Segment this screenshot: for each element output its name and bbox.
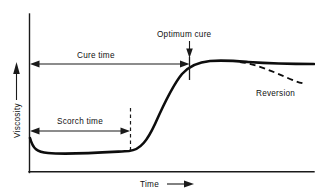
- cure-curve-figure: Viscosity Time Cure time Scorch time: [0, 0, 315, 192]
- scorch-time-right-arrow-icon: [121, 128, 131, 135]
- cure-time-label: Cure time: [77, 51, 115, 60]
- scorch-time-left-arrow-icon: [30, 128, 40, 135]
- optimum-cure-down-arrow-icon: [186, 49, 193, 59]
- cure-time-right-arrow-icon: [180, 61, 190, 68]
- right-arrow-icon: [184, 181, 194, 188]
- x-axis-label: Time: [140, 180, 159, 189]
- scorch-time-label: Scorch time: [57, 117, 103, 126]
- y-axis-label-group: Viscosity: [13, 62, 22, 138]
- cure-time-left-arrow-icon: [30, 61, 40, 68]
- cure-curve-line: [30, 61, 314, 154]
- y-axis-label: Viscosity: [13, 103, 22, 138]
- scorch-time-annotation: Scorch time: [30, 108, 131, 153]
- cure-time-annotation: Cure time: [30, 48, 190, 67]
- x-axis-label-group: Time: [140, 180, 194, 189]
- reversion-curve-line: [240, 62, 306, 84]
- optimum-cure-label: Optimum cure: [157, 30, 212, 39]
- reversion-annotation: Reversion: [256, 89, 295, 98]
- reversion-label: Reversion: [256, 89, 295, 98]
- up-arrow-icon: [13, 62, 20, 74]
- figure-canvas: Viscosity Time Cure time Scorch time: [0, 0, 315, 192]
